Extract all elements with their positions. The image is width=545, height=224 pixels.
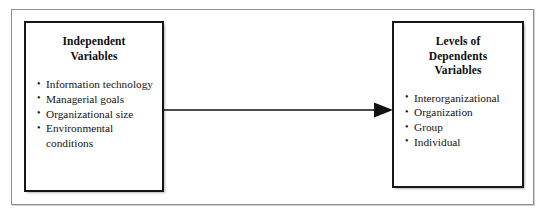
relationship-arrow-icon (163, 100, 395, 120)
list-item: Managerial goals (37, 92, 155, 106)
independent-variables-list: Information technology Managerial goals … (37, 77, 155, 150)
dependent-variables-list: Interorganizational Organization Group I… (405, 91, 523, 150)
arrow-head (374, 103, 393, 118)
heading-line-2: Variables (34, 49, 154, 64)
heading-line-1: Independent (34, 34, 154, 49)
list-item: Organization (405, 105, 523, 119)
list-item: Organizational size (37, 107, 155, 121)
dependent-variables-heading: Levels of Dependents Variables (402, 34, 514, 78)
heading-line-3: Variables (402, 63, 514, 78)
list-item: Interorganizational (405, 91, 523, 105)
independent-variables-box: Independent Variables Information techno… (24, 21, 164, 192)
list-item: Information technology (37, 77, 155, 91)
heading-line-2: Dependents (402, 49, 514, 64)
list-item: Group (405, 120, 523, 134)
heading-line-1: Levels of (402, 34, 514, 49)
diagram-canvas: Independent Variables Information techno… (0, 0, 545, 224)
list-item: Environmental conditions (37, 121, 155, 150)
independent-variables-heading: Independent Variables (34, 34, 154, 63)
list-item: Individual (405, 135, 523, 149)
dependent-variables-box: Levels of Dependents Variables Interorga… (392, 21, 524, 188)
